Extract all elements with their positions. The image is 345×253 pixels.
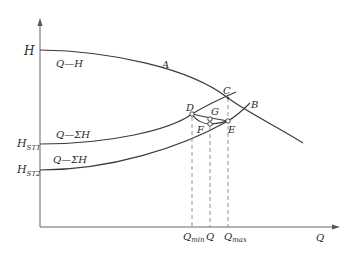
label-e: E [227, 124, 236, 135]
x-tick-qmax: Qmax [224, 231, 247, 244]
point-c [227, 97, 229, 99]
point-f [208, 122, 212, 126]
label-c: C [223, 85, 231, 96]
label-f: F [196, 124, 205, 135]
pump-system-diagram: H HST1 HST2 Q—H Q—ΣH Q—ΣH A C B D G F E … [0, 0, 345, 253]
y-tick-h: H [23, 44, 35, 58]
y-tick-hst1: HST1 [16, 137, 41, 152]
label-system-curve-1: Q—ΣH [56, 129, 90, 140]
label-a: A [161, 59, 169, 70]
x-tick-qmin: Qmin [183, 231, 205, 244]
point-e [226, 119, 230, 123]
x-axis-arrow-icon [332, 225, 340, 230]
x-tick-q: Q [206, 231, 214, 242]
label-b: B [250, 99, 258, 110]
x-axis-label: Q [316, 232, 324, 243]
point-g [208, 117, 212, 121]
label-d: D [185, 102, 194, 113]
y-axis-arrow-icon [38, 18, 43, 26]
label-pump-curve: Q—H [56, 58, 83, 69]
y-tick-hst2: HST2 [16, 163, 41, 178]
label-system-curve-2: Q—ΣH [53, 154, 87, 165]
label-g: G [211, 106, 219, 117]
